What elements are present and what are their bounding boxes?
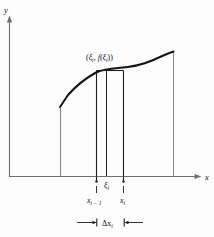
tick-label-x-left: xi − 1 xyxy=(86,196,102,206)
tick-x-left-sub: i − 1 xyxy=(91,200,102,206)
delta-x-label: Δxi xyxy=(102,219,113,229)
delta-subscript: i xyxy=(111,223,113,229)
y-axis-arrowhead xyxy=(7,16,12,23)
sample-point-label: (ξi, f(ξi)) xyxy=(86,53,113,63)
riemann-sum-figure: y x (ξi, f(ξi)) ξi xi − 1 xi xyxy=(0,0,214,237)
diagram-canvas: y x (ξi, f(ξi)) ξi xi − 1 xi xyxy=(0,0,214,237)
dim-arrowhead-left xyxy=(93,221,97,224)
approximating-rectangle xyxy=(97,71,124,177)
x-axis-label: x xyxy=(204,172,209,182)
tick-label-x-right: xi xyxy=(119,196,126,206)
tick-label-xi: ξi xyxy=(104,181,109,191)
function-curve xyxy=(60,52,174,108)
tick-x-right-sub: i xyxy=(124,200,126,206)
y-axis-label: y xyxy=(3,5,8,15)
x-axis xyxy=(9,174,202,179)
dim-arrowhead-right xyxy=(125,221,129,224)
y-axis xyxy=(7,16,12,177)
paren-close: ) xyxy=(110,53,113,62)
tick-dot-x-right xyxy=(122,180,124,182)
x-axis-arrowhead xyxy=(195,174,202,179)
tick-dot-x-left xyxy=(95,180,97,182)
delta-x-dimension: Δxi xyxy=(77,219,143,229)
tick-xi-sub: i xyxy=(107,185,109,191)
delta-symbol: Δx xyxy=(102,219,111,228)
axis-ticks xyxy=(95,177,124,183)
